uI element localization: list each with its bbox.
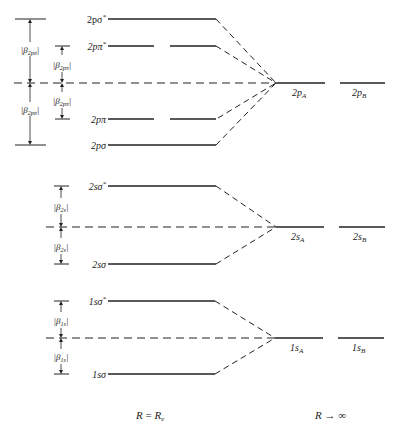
correlation-2s-sigma-star: [216, 186, 276, 227]
label-beta-2ppi-upper: |β2pπ|: [53, 60, 71, 71]
footer-left-label: R = Re: [135, 409, 164, 423]
label-2s-sigma: 2sσ: [92, 259, 107, 270]
label-beta-2psigma-lower: |β2pσ|: [21, 105, 39, 116]
label-beta-2psigma-upper: |β2pσ|: [21, 45, 39, 56]
mo-diagram: 2pσ* 2pπ* 2pπ 2pσ 2pA 2pB |β2pσ| |β2pσ| …: [0, 0, 396, 432]
label-2p-pi-star: 2pπ*: [87, 40, 106, 52]
correlation-2s-sigma: [216, 227, 276, 264]
label-beta-2s-lower: |β2s|: [54, 242, 69, 253]
label-beta-2ppi-lower: |β2pπ|: [53, 96, 71, 107]
correlation-1s-sigma: [215, 338, 275, 374]
label-2s-sigma-star: 2sσ*: [89, 180, 107, 192]
label-2p-sigma-star: 2pσ*: [87, 13, 106, 25]
label-beta-1s-upper: |β1s|: [54, 316, 69, 327]
label-1s-sigma-star: 1sσ*: [89, 295, 107, 307]
label-2sB: 2sB: [353, 231, 367, 244]
label-1sB: 1sB: [352, 342, 366, 355]
label-beta-1s-lower: |β1s|: [54, 352, 69, 363]
correlation-1s-sigma-star: [215, 301, 275, 338]
label-1sA: 1sA: [290, 342, 304, 355]
footer-right-label: R → ∞: [314, 409, 346, 421]
label-beta-2s-upper: |β2s|: [54, 202, 69, 213]
label-2p-sigma: 2pσ: [91, 140, 107, 151]
label-2pB: 2pB: [352, 87, 367, 100]
group-1s: [46, 301, 384, 374]
label-1s-sigma: 1sσ: [92, 369, 107, 380]
label-2sA: 2sA: [291, 231, 305, 244]
label-2p-pi: 2pπ: [91, 114, 107, 125]
label-2pA: 2pA: [292, 87, 307, 100]
correlation-2p-sigma: [216, 83, 276, 145]
group-2p: [14, 19, 385, 145]
group-2s: [46, 186, 385, 264]
